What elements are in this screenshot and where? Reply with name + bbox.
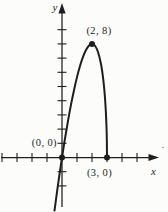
- point-marker: [59, 155, 65, 161]
- point-label: (0, 0): [32, 137, 57, 149]
- point-marker: [104, 155, 110, 161]
- y-axis-label: y: [52, 1, 58, 13]
- y-axis-arrowhead: [58, 3, 65, 14]
- x-axis-arrowhead: [149, 154, 160, 161]
- point-label: (2, 8): [86, 25, 111, 37]
- point-label: (3, 0): [87, 167, 112, 179]
- point-marker: [89, 41, 95, 47]
- function-graph: (0, 0)(2, 8)(3, 0)xy: [0, 0, 168, 212]
- x-axis-label: x: [150, 165, 156, 177]
- stray-ink-mark: [162, 147, 164, 149]
- figure-canvas: (0, 0)(2, 8)(3, 0)xy: [0, 0, 168, 212]
